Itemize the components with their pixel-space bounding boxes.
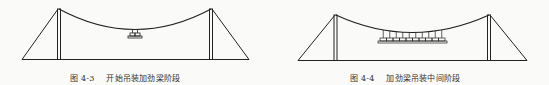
girder-segment [135,33,140,36]
girder-segments [128,29,142,38]
main-cable [59,9,211,30]
girder-segment [400,38,407,41]
girder-segment [426,38,433,41]
girder-segment [432,38,439,41]
girder-segment [380,38,387,41]
girder-segment [406,38,413,41]
girder-segment [419,38,426,41]
figure-4-3: 图 4-3开始吊装加劲梁阶段 [0,0,275,85]
girder-segment [387,38,394,41]
main-cable [336,15,489,33]
girder-segment [413,38,420,41]
right-backstay [212,9,249,60]
right-tower [488,15,491,61]
left-backstay [22,9,58,60]
girder-segment [439,38,446,41]
left-backstay [298,15,335,61]
figure-title: 加劲梁吊装中间阶段 [386,72,460,83]
figure-number: 图 4-4 [350,72,374,83]
left-tower [334,15,337,61]
figure-number: 图 4-3 [70,72,94,83]
girder-segment [393,38,400,41]
figure-caption: 图 4-3开始吊装加劲梁阶段 [70,72,180,83]
girder-segments [378,30,447,43]
right-backstay [490,15,527,61]
right-tower [210,9,213,60]
figure-title: 开始吊装加劲梁阶段 [106,72,180,83]
left-tower [58,9,61,60]
figure-caption: 图 4-4加劲梁吊装中间阶段 [350,72,460,83]
figure-4-4: 图 4-4加劲梁吊装中间阶段 [274,0,549,85]
girder-segment [130,33,135,36]
